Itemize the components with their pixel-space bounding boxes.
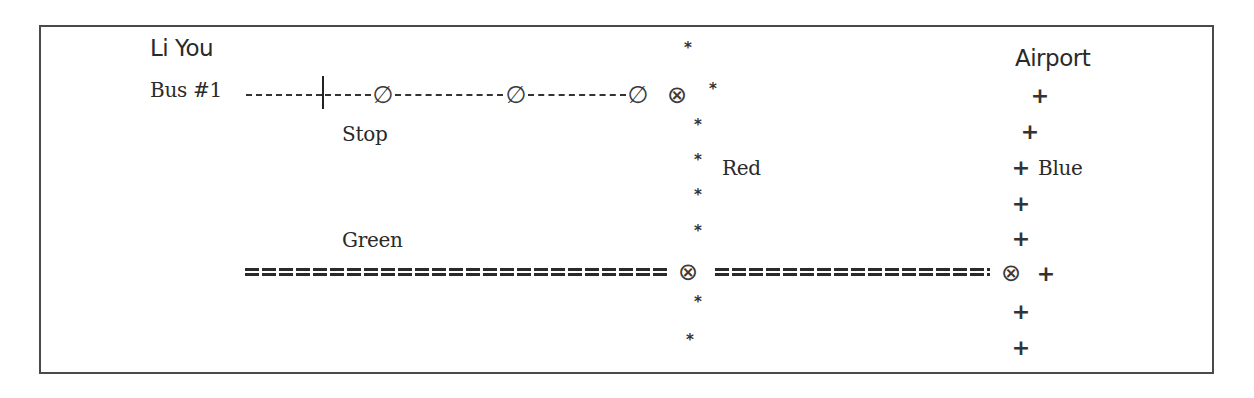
bus-line-segment-1 xyxy=(246,94,322,96)
green-line-segment-east xyxy=(715,268,990,276)
title-label-li-you: Li You xyxy=(150,37,213,60)
red-line-star-icon: * xyxy=(694,153,702,168)
green-line-label: Green xyxy=(342,230,403,250)
blue-line-plus-icon: + xyxy=(1012,228,1030,250)
red-line-star-icon: * xyxy=(684,41,692,56)
red-line-label: Red xyxy=(722,158,761,178)
red-line-star-icon: * xyxy=(694,118,702,133)
stop-icon: ∅ xyxy=(628,83,649,107)
transfer-icon-bus-red: ⊗ xyxy=(667,83,687,107)
blue-line-plus-icon: + xyxy=(1037,263,1055,285)
bus-line-segment-2 xyxy=(325,94,371,96)
blue-line-plus-icon: + xyxy=(1012,193,1030,215)
bus-line-segment-4 xyxy=(528,94,626,96)
blue-line-label: Blue xyxy=(1038,158,1083,178)
transfer-icon-red-green: ⊗ xyxy=(678,260,698,284)
airport-label: Airport xyxy=(1015,47,1090,70)
red-line-star-icon: * xyxy=(686,333,694,348)
bus-line-label: Bus #1 xyxy=(150,80,222,100)
blue-line-plus-icon: + xyxy=(1012,157,1030,179)
transfer-icon-green-blue: ⊗ xyxy=(1001,261,1021,285)
green-line-segment-west xyxy=(245,268,669,276)
red-line-star-icon: * xyxy=(694,295,702,310)
bus-line-segment-3 xyxy=(395,94,503,96)
stop-icon: ∅ xyxy=(373,83,394,107)
blue-line-plus-icon: + xyxy=(1031,85,1049,107)
stop-label: Stop xyxy=(342,124,387,144)
blue-line-plus-icon: + xyxy=(1012,301,1030,323)
red-line-star-icon: * xyxy=(694,188,702,203)
red-line-star-icon: * xyxy=(694,224,702,239)
start-tick-mark xyxy=(322,76,324,109)
blue-line-plus-icon: + xyxy=(1021,121,1039,143)
stop-icon: ∅ xyxy=(506,83,527,107)
red-line-star-icon: * xyxy=(709,82,717,97)
blue-line-plus-icon: + xyxy=(1012,337,1030,359)
